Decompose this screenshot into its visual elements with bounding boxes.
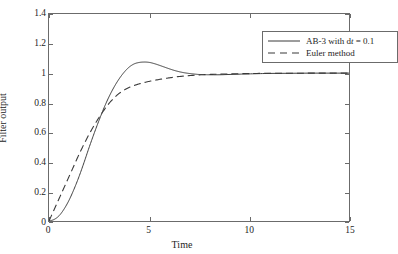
series-line-ab3 — [49, 62, 349, 221]
x-tick-label-10: 10 — [245, 226, 255, 236]
y-tick-label-0.2: 0.2 — [34, 188, 46, 198]
x-tick-mark-top — [350, 14, 351, 18]
legend-label-ab3: AB-3 with dt = 0.1 — [306, 36, 374, 46]
legend-swatch-dashed-icon — [267, 48, 301, 58]
x-tick-mark — [350, 217, 351, 221]
y-tick-label-0.8: 0.8 — [34, 99, 46, 109]
legend-entry-euler: Euler method — [267, 47, 392, 59]
x-tick-label-0: 0 — [46, 226, 51, 236]
legend-box: AB-3 with dt = 0.1 Euler method — [262, 31, 398, 63]
x-tick-label-5: 5 — [146, 226, 151, 236]
legend-label-ab3-prefix: AB-3 with d — [306, 36, 351, 46]
y-tick-label-0.4: 0.4 — [34, 158, 46, 168]
legend-entry-ab3: AB-3 with dt = 0.1 — [267, 35, 392, 47]
x-tick-label-15: 15 — [345, 226, 355, 236]
y-tick-label-1.2: 1.2 — [34, 39, 46, 49]
y-tick-label-1.4: 1.4 — [34, 9, 46, 19]
series-line-euler — [49, 73, 349, 221]
legend-swatch-solid-icon — [267, 36, 301, 46]
y-tick-label-0.6: 0.6 — [34, 128, 46, 138]
x-axis-title: Time — [0, 239, 364, 250]
y-tick-label-1: 1 — [41, 69, 46, 79]
y-tick-mark-right — [345, 222, 349, 223]
y-axis-title: Filter output — [0, 93, 8, 143]
y-tick-mark — [49, 222, 53, 223]
plot-area: AB-3 with dt = 0.1 Euler method — [48, 13, 350, 222]
legend-label-ab3-suffix: = 0.1 — [354, 36, 375, 46]
legend-label-euler: Euler method — [306, 48, 355, 58]
